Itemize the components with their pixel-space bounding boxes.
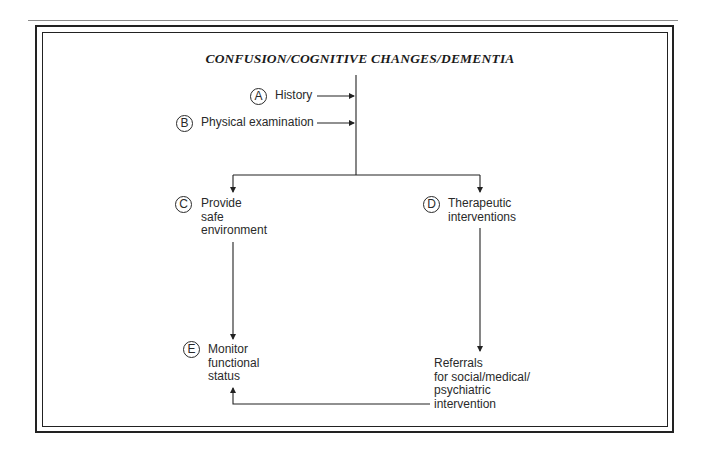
node-a-label: History <box>275 89 312 103</box>
arrow-referrals-to-e <box>233 388 430 404</box>
flowchart-connectors <box>0 0 707 454</box>
node-a-badge: A <box>250 88 267 105</box>
node-d-badge: D <box>423 196 440 213</box>
referrals-label: Referrals for social/medical/ psychiatri… <box>434 357 530 411</box>
node-b-label: Physical examination <box>201 116 314 130</box>
node-c-badge: C <box>175 196 192 213</box>
node-b-badge: B <box>176 115 193 132</box>
node-c-label: Provide safe environment <box>201 197 267 238</box>
node-e-badge: E <box>183 341 200 358</box>
node-e-label: Monitor functional status <box>208 343 259 384</box>
node-d-label: Therapeutic interventions <box>448 197 516 224</box>
